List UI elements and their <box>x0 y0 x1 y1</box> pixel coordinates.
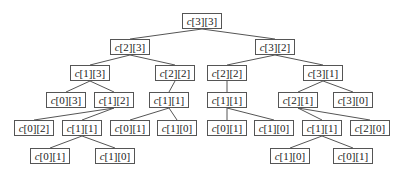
tree-edge <box>323 81 353 92</box>
node-index: [3][3] <box>192 15 218 27</box>
tree-node: c[2][3] <box>110 39 150 55</box>
tree-edge <box>50 136 82 148</box>
node-index: [1][1] <box>72 122 98 134</box>
tree-edge <box>130 29 202 39</box>
tree-edge <box>34 108 114 120</box>
node-index: [2][2] <box>217 67 243 79</box>
tree-edge <box>290 136 322 148</box>
tree-edge <box>275 55 323 65</box>
tree-edge <box>169 81 175 92</box>
tree-node: c[2][2] <box>155 65 195 81</box>
node-index: [1][0] <box>264 122 290 134</box>
tree-node: c[1][0] <box>95 148 135 164</box>
node-index: [1][1] <box>217 94 243 106</box>
tree-node: c[3][0] <box>333 92 373 108</box>
recursion-tree-diagram: c[3][3]c[2][3]c[3][2]c[1][3]c[2][2]c[2][… <box>0 0 401 179</box>
node-index: [1][0] <box>280 150 306 162</box>
tree-edge <box>130 108 169 120</box>
tree-node: c[1][3] <box>70 65 110 81</box>
node-index: [2][0] <box>360 122 386 134</box>
node-index: [2][1] <box>288 94 314 106</box>
tree-node: c[1][2] <box>94 92 134 108</box>
tree-node: c[0][1] <box>110 120 150 136</box>
tree-edge <box>82 108 114 120</box>
tree-edge <box>66 81 90 92</box>
tree-node: c[0][2] <box>14 120 54 136</box>
node-index: [1][3] <box>80 67 106 79</box>
tree-edge <box>227 55 275 65</box>
tree-node: c[2][1] <box>278 92 318 108</box>
tree-edge <box>322 136 353 148</box>
tree-edge <box>202 29 275 39</box>
node-index: [3][1] <box>313 67 339 79</box>
node-index: [0][1] <box>40 150 66 162</box>
node-index: [0][2] <box>24 122 50 134</box>
node-index: [0][1] <box>343 150 369 162</box>
tree-node: c[0][1] <box>207 120 247 136</box>
tree-edge <box>90 55 130 65</box>
tree-node: c[1][1] <box>149 92 189 108</box>
tree-node: c[0][1] <box>30 148 70 164</box>
node-index: [1][0] <box>105 150 131 162</box>
tree-node: c[3][3] <box>182 13 222 29</box>
tree-node: c[0][1] <box>333 148 373 164</box>
tree-node: c[3][1] <box>303 65 343 81</box>
tree-node: c[2][2] <box>207 65 247 81</box>
node-index: [0][1] <box>120 122 146 134</box>
tree-node: c[0][3] <box>46 92 86 108</box>
node-index: [2][3] <box>120 41 146 53</box>
tree-edge <box>298 81 323 92</box>
tree-node: c[1][1] <box>207 92 247 108</box>
tree-edge <box>227 108 274 120</box>
node-index: [1][1] <box>159 94 185 106</box>
tree-edge <box>130 55 175 65</box>
node-index: [2][2] <box>165 67 191 79</box>
tree-node: c[2][0] <box>350 120 390 136</box>
tree-node: c[1][0] <box>270 148 310 164</box>
tree-node: c[3][2] <box>255 39 295 55</box>
tree-node: c[1][1] <box>302 120 342 136</box>
tree-edge <box>298 108 370 120</box>
node-index: [1][2] <box>104 94 130 106</box>
tree-edge <box>82 136 115 148</box>
node-index: [1][0] <box>167 122 193 134</box>
tree-node: c[1][0] <box>157 120 197 136</box>
node-index: [3][2] <box>265 41 291 53</box>
node-index: [0][3] <box>56 94 82 106</box>
tree-node: c[1][0] <box>254 120 294 136</box>
tree-edge <box>90 81 114 92</box>
tree-edge <box>169 108 177 120</box>
node-index: [3][0] <box>343 94 369 106</box>
node-index: [0][1] <box>217 122 243 134</box>
tree-node: c[1][1] <box>62 120 102 136</box>
node-index: [1][1] <box>312 122 338 134</box>
